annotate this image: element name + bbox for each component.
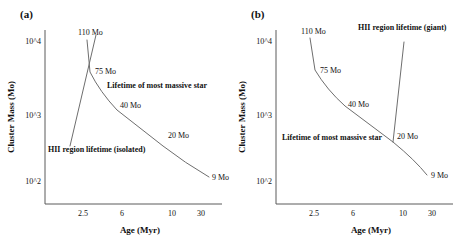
panel-b-label-40mo: 40 Mo bbox=[348, 100, 369, 109]
panel-a-label-110mo: 110 Mo bbox=[78, 28, 103, 37]
panel-b-letter: (b) bbox=[251, 8, 265, 21]
panel-b-ytick-10e4: 10^4 bbox=[256, 37, 272, 46]
panel-b-ylabel: Cluster Mass (Mo) bbox=[237, 81, 247, 153]
panel-a-letter: (a) bbox=[20, 8, 33, 21]
panel-a-xlabel: Age (Myr) bbox=[120, 225, 160, 235]
panel-a-ylabel: Cluster Mass (Mo) bbox=[6, 81, 16, 153]
figure-container: (a) 10^4 10^3 10^2 Cluster Mass (Mo) 2.5… bbox=[0, 0, 462, 241]
panel-a: (a) 10^4 10^3 10^2 Cluster Mass (Mo) 2.5… bbox=[0, 0, 231, 241]
panel-b-xtick-6: 6 bbox=[351, 209, 355, 218]
panel-a-label-75mo: 75 Mo bbox=[95, 67, 116, 76]
panel-b-xlabel: Age (Myr) bbox=[351, 225, 391, 235]
panel-b-annot-hii-giant: HII region lifetime (giant) bbox=[358, 23, 447, 32]
panel-a-hii-isolated-line bbox=[70, 35, 96, 146]
panel-b-xtick-10: 10 bbox=[399, 209, 407, 218]
panel-b-ytick-10e2: 10^2 bbox=[256, 177, 272, 186]
panel-a-label-9mo: 9 Mo bbox=[212, 173, 229, 182]
panel-a-axes bbox=[45, 30, 222, 204]
panel-a-xtick-2p5: 2.5 bbox=[78, 209, 88, 218]
panel-a-xtick-6: 6 bbox=[120, 209, 124, 218]
panel-a-plot: (a) 10^4 10^3 10^2 Cluster Mass (Mo) 2.5… bbox=[0, 0, 231, 241]
panel-a-ytick-10e3: 10^3 bbox=[25, 111, 41, 120]
panel-a-xtick-30: 30 bbox=[197, 209, 205, 218]
panel-b-axes bbox=[276, 30, 453, 204]
panel-a-annot-massive-star-lifetime: Lifetime of most massive star bbox=[107, 81, 207, 90]
panel-b-annot-massive-star-lifetime: Lifetime of most massive star bbox=[282, 133, 382, 142]
panel-a-label-20mo: 20 Mo bbox=[168, 131, 189, 140]
panel-b-label-20mo: 20 Mo bbox=[397, 132, 418, 141]
panel-b-label-110mo: 110 Mo bbox=[301, 27, 326, 36]
panel-b-ytick-10e3: 10^3 bbox=[256, 111, 272, 120]
panel-b-plot: (b) 10^4 10^3 10^2 Cluster Mass (Mo) 2.5… bbox=[231, 0, 462, 241]
panel-a-ytick-10e2: 10^2 bbox=[25, 177, 41, 186]
panel-b-hii-giant-line bbox=[393, 42, 404, 142]
panel-a-annot-hii-isolated: HII region lifetime (isolated) bbox=[48, 145, 146, 154]
panel-b-xtick-30: 30 bbox=[428, 209, 436, 218]
panel-b-label-75mo: 75 Mo bbox=[320, 66, 341, 75]
panel-a-ytick-10e4: 10^4 bbox=[25, 37, 41, 46]
panel-b-label-9mo: 9 Mo bbox=[431, 171, 448, 180]
panel-a-mass-sequence-curve bbox=[87, 40, 209, 177]
panel-b: (b) 10^4 10^3 10^2 Cluster Mass (Mo) 2.5… bbox=[231, 0, 462, 241]
panel-b-xtick-2p5: 2.5 bbox=[309, 209, 319, 218]
panel-a-xtick-10: 10 bbox=[168, 209, 176, 218]
panel-a-label-40mo: 40 Mo bbox=[120, 101, 141, 110]
